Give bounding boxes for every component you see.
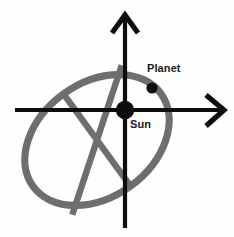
orbit-diagram-canvas xyxy=(0,0,234,237)
planet-dot xyxy=(146,82,157,93)
planet-label: Planet xyxy=(147,63,181,74)
sun-dot xyxy=(116,101,134,119)
sun-label: Sun xyxy=(130,119,151,130)
orbit-group xyxy=(0,47,194,232)
orbit-diagram: Planet Sun xyxy=(0,0,234,237)
bodies-group xyxy=(116,82,158,119)
